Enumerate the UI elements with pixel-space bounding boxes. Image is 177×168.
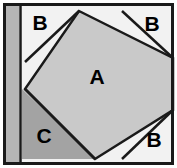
region-label-b-top-right: B [144,12,159,35]
region-label-a: A [89,65,104,88]
figure-canvas: B B A C B [0,0,177,168]
region-label-c: C [36,124,51,147]
geometric-figure-panel: B B A C B [0,0,177,168]
left-vertical-band [6,6,19,162]
region-label-b-bottom-right: B [146,128,161,151]
region-label-b-top-left: B [32,11,47,34]
